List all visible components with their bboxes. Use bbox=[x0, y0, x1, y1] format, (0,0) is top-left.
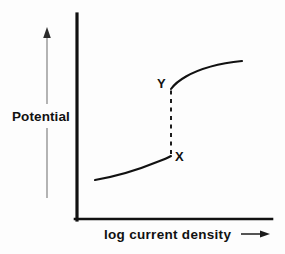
x-axis-title: log current density bbox=[104, 228, 231, 242]
point-label-x: X bbox=[175, 150, 184, 163]
y-axis-title: Potential bbox=[12, 110, 70, 124]
curve-passive-branch bbox=[171, 61, 242, 89]
polarization-curve-figure: Potential log current density Y X bbox=[0, 0, 285, 254]
curve-active-branch bbox=[95, 156, 171, 180]
right-arrow-icon bbox=[241, 231, 270, 238]
plot-canvas bbox=[0, 0, 285, 254]
point-label-y: Y bbox=[157, 77, 166, 90]
